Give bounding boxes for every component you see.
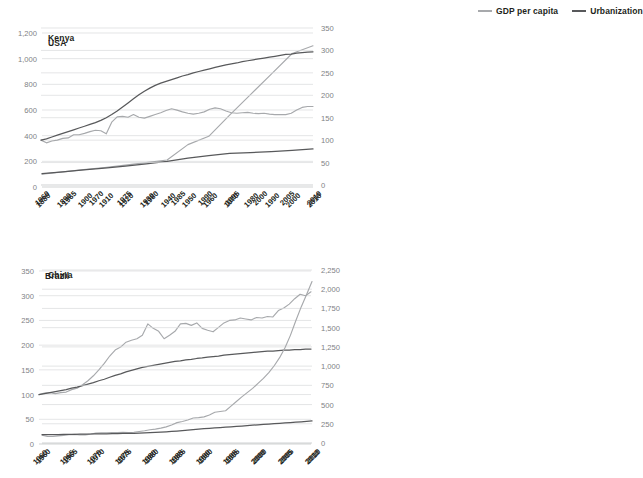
y-tick-label: 800 — [0, 80, 37, 89]
y-tick-label: 2,250 — [321, 266, 340, 275]
y-tick-label: 150 — [321, 113, 334, 122]
y-tick-label: 1,250 — [321, 342, 340, 351]
y-tick-label: 350 — [0, 267, 34, 276]
chart-panel-china: China02505007501,0001,2501,5001,7502,000… — [321, 239, 642, 478]
y-tick-label: 1,750 — [321, 304, 340, 313]
y-tick-label: 200 — [0, 157, 37, 166]
series-line-urbanization — [39, 349, 311, 394]
y-tick-label: 200 — [0, 341, 34, 350]
y-tick-label: 1,200 — [0, 29, 37, 38]
y-tick-label: 0 — [0, 440, 34, 449]
y-tick-label: 400 — [0, 131, 37, 140]
y-tick-label: 300 — [0, 291, 34, 300]
y-tick-label: 600 — [0, 106, 37, 115]
y-tick-label: 300 — [321, 46, 334, 55]
y-tick-label: 1,000 — [0, 54, 37, 63]
y-tick-label: 50 — [0, 415, 34, 424]
y-tick-label: 250 — [0, 316, 34, 325]
y-tick-label: 50 — [321, 158, 329, 167]
plot-title-kenya: Kenya — [48, 33, 75, 43]
series-line-gdp-per-capita — [39, 292, 311, 395]
plot-canvas-china — [321, 239, 642, 478]
y-tick-label: 200 — [321, 91, 334, 100]
y-tick-label: 250 — [321, 68, 334, 77]
y-tick-label: 100 — [321, 136, 334, 145]
y-tick-label: 100 — [0, 390, 34, 399]
y-tick-label: 2,000 — [321, 285, 340, 294]
y-tick-label: 750 — [321, 381, 334, 390]
y-tick-label: 0 — [321, 181, 325, 190]
y-tick-label: 1,500 — [321, 323, 340, 332]
y-tick-label: 500 — [321, 400, 334, 409]
plot-canvas-kenya — [321, 0, 642, 239]
y-tick-label: 250 — [321, 419, 334, 428]
y-tick-label: 0 — [0, 183, 37, 192]
y-tick-label: 150 — [0, 365, 34, 374]
y-tick-label: 350 — [321, 24, 334, 33]
y-tick-label: 0 — [321, 439, 325, 448]
plot-title-china: China — [48, 270, 73, 280]
y-tick-label: 1,000 — [321, 362, 340, 371]
chart-panel-kenya: Kenya05010015020025030035019601965197019… — [321, 0, 642, 239]
